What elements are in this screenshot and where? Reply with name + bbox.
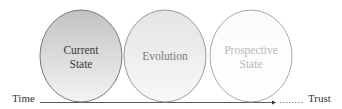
- arrow-head-icon: [272, 101, 276, 105]
- stage-label-current: Current State: [40, 40, 122, 74]
- stage-label-line1: Prospective: [224, 43, 278, 57]
- stage-label-evolution: Evolution: [124, 47, 206, 65]
- axis-end-label: Trust: [308, 92, 331, 104]
- stage-label-line1: Evolution: [142, 49, 187, 63]
- stage-label-line1: Current: [63, 43, 98, 57]
- axis-start-label: Time: [12, 92, 35, 104]
- stage-label-prospective: Prospective State: [210, 40, 292, 74]
- stage-label-line2: State: [224, 57, 278, 71]
- stage-label-line2: State: [63, 57, 98, 71]
